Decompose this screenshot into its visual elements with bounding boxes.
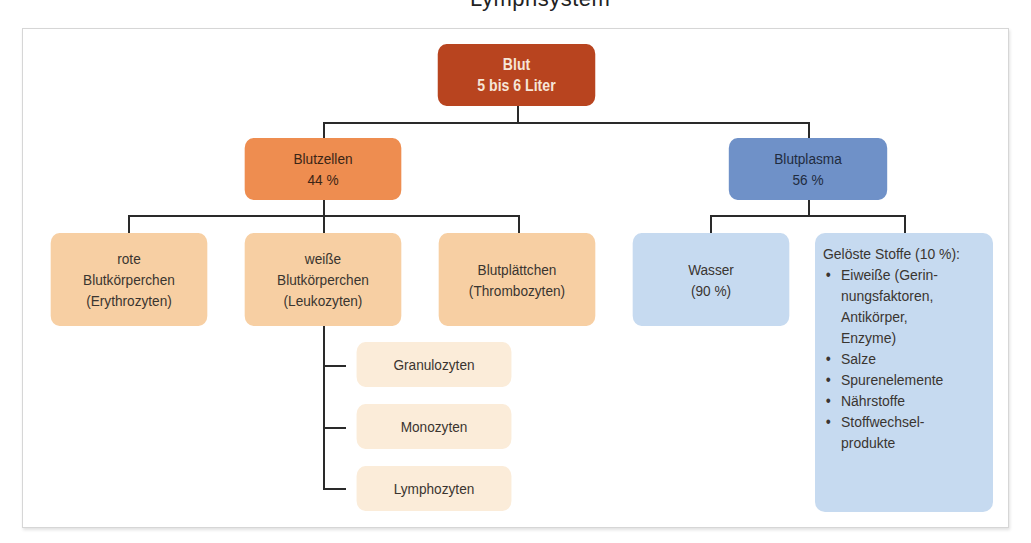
list-item: Eiweiße (Gerin- nungsfaktoren, Antikörpe… — [841, 264, 994, 348]
node-label: Blut — [503, 54, 530, 75]
connector — [904, 215, 906, 233]
node-heading: Gelöste Stoffe (10 %): — [823, 243, 994, 264]
list-item: Spurenelemente — [841, 369, 994, 390]
node-line: Blutkörperchen — [83, 269, 175, 290]
node-line: Wasser — [688, 259, 734, 280]
node-line: (Leukozyten) — [284, 290, 363, 311]
item-line: Spurenelemente — [841, 369, 994, 390]
clipped-page-title: Lymphsystem — [470, 0, 610, 12]
list-item: Salze — [841, 348, 994, 369]
item-line: nungsfaktoren, — [841, 285, 994, 306]
connector — [323, 326, 325, 489]
node-line: Blutkörperchen — [277, 269, 369, 290]
item-line: produkte — [841, 432, 994, 453]
node-granulozyten: Granulozyten — [357, 342, 512, 387]
node-label: Blutzellen — [293, 148, 352, 169]
node-blutzellen: Blutzellen 44 % — [245, 138, 402, 200]
node-leukozyten: weiße Blutkörperchen (Leukozyten) — [245, 233, 402, 326]
item-line: Salze — [841, 348, 994, 369]
node-line: Granulozyten — [393, 354, 474, 375]
node-line: Blutplättchen — [478, 259, 557, 280]
node-line: (Thrombozyten) — [469, 280, 565, 301]
node-line: weiße — [305, 248, 341, 269]
connector — [808, 122, 810, 139]
connector — [710, 215, 712, 233]
node-label: Blutplasma — [774, 148, 841, 169]
dissolved-list: Eiweiße (Gerin- nungsfaktoren, Antikörpe… — [823, 264, 994, 453]
node-line: (90 %) — [691, 280, 731, 301]
list-item: Nährstoffe — [841, 390, 994, 411]
node-line: Lymphozyten — [394, 478, 475, 499]
node-lymphozyten: Lymphozyten — [357, 466, 512, 511]
node-blut: Blut 5 bis 6 Liter — [438, 44, 596, 106]
node-volume: 5 bis 6 Liter — [477, 75, 555, 96]
list-item: Stoffwechsel- produkte — [841, 411, 994, 453]
node-line: Monozyten — [401, 416, 468, 437]
connector — [323, 122, 809, 124]
node-geloeste-stoffe: Gelöste Stoffe (10 %): Eiweiße (Gerin- n… — [815, 233, 993, 512]
node-line: rote — [117, 248, 141, 269]
item-line: Eiweiße (Gerin- — [841, 264, 994, 285]
connector — [323, 427, 346, 429]
connector — [517, 106, 519, 123]
connector — [808, 200, 810, 216]
item-line: Nährstoffe — [841, 390, 994, 411]
connector — [710, 215, 905, 217]
connector — [323, 488, 346, 490]
node-percent: 56 % — [792, 169, 823, 190]
connector — [323, 122, 325, 139]
item-line: Antikörper, — [841, 306, 994, 327]
item-line: Stoffwechsel- — [841, 411, 994, 432]
node-monozyten: Monozyten — [357, 404, 512, 449]
connector — [323, 365, 346, 367]
node-line: (Erythrozyten) — [86, 290, 172, 311]
connector — [128, 215, 519, 217]
node-percent: 44 % — [307, 169, 338, 190]
connector — [518, 215, 520, 233]
node-blutplasma: Blutplasma 56 % — [729, 138, 887, 200]
node-erythrozyten: rote Blutkörperchen (Erythrozyten) — [51, 233, 208, 326]
node-thrombozyten: Blutplättchen (Thrombozyten) — [439, 233, 596, 326]
item-line: Enzyme) — [841, 327, 994, 348]
connector — [323, 200, 325, 233]
node-wasser: Wasser (90 %) — [633, 233, 790, 326]
connector — [128, 215, 130, 233]
